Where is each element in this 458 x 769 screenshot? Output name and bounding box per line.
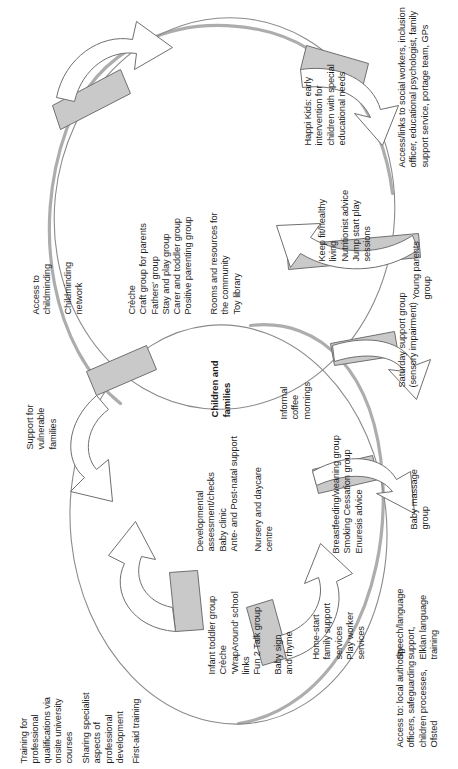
label-first-aid-training: First-aid training xyxy=(130,643,141,763)
label-young-parents-group: Young parents group xyxy=(410,189,433,299)
label-baby-massage-group: Baby massage group xyxy=(408,419,431,529)
label-rooms-resources-toy-library: Rooms and resources for the community To… xyxy=(208,130,242,314)
label-creche-groups: Crèche Craft group for parents Fathers' … xyxy=(126,134,194,314)
arrow-top-left xyxy=(108,521,203,631)
label-access-to-childminding: Access to childminding xyxy=(30,218,53,314)
label-infant-toddler-groups: Infant toddler group Crèche 'WrapAround'… xyxy=(206,542,262,674)
label-informal-coffee-mornings: Informal coffee mornings xyxy=(278,327,312,419)
label-speech-language-elklan: Speech/language support, Elklan language… xyxy=(394,539,439,659)
label-support-vulnerable-families: Support for vulnerable families xyxy=(24,353,58,449)
label-happi-kids-early-intervention: Happi Kids: early intervention for child… xyxy=(302,9,347,145)
label-home-start-family-support: Home-start family support services Play … xyxy=(310,559,366,659)
label-baby-sign-and-rhyme: Baby sign and rhyme xyxy=(272,574,295,674)
label-training-professional-qualifications: Training for professional qualifications… xyxy=(18,645,74,763)
arrow-top-right xyxy=(52,21,172,129)
label-access-links-social-workers: Access/links to social workers, inclusio… xyxy=(396,0,430,167)
label-sharing-specialist-aspects: Sharing specialist aspects of profession… xyxy=(80,645,125,763)
label-keep-fit-nutritionist: Keep fit/healthy living Nutritionist adv… xyxy=(316,143,372,261)
arrow-top-centre xyxy=(70,345,156,501)
diagram-canvas: Training for professional qualifications… xyxy=(0,0,458,769)
label-center-children-and-families: Children and families xyxy=(208,325,231,417)
label-nursery-and-daycare-centre: Nursery and daycare centre xyxy=(252,411,275,551)
diagram-page: Training for professional qualifications… xyxy=(0,0,458,769)
label-breastfeeding-smoking-enuresis: Breastfeeding/weaning group Smoking Cess… xyxy=(330,363,364,553)
label-childminding-network: Childminding network xyxy=(62,218,85,314)
